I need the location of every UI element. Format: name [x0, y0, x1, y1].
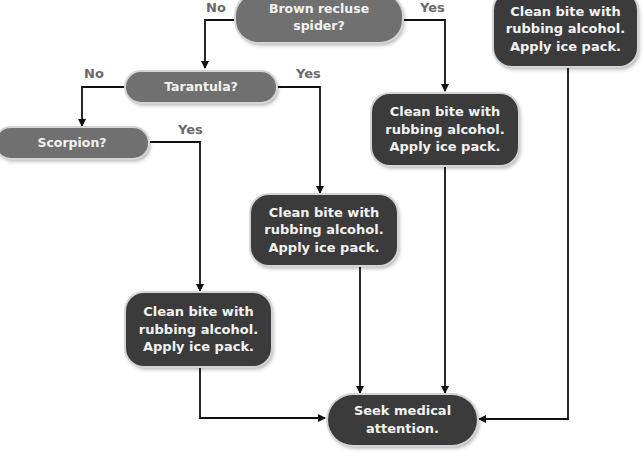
node-text: rubbing alcohol.	[139, 321, 258, 339]
node-text: rubbing alcohol.	[506, 20, 625, 38]
node-text: Seek medical	[354, 402, 451, 420]
node-text: spider?	[293, 18, 345, 35]
node-seek-medical: Seek medical attention.	[328, 395, 477, 445]
node-text: rubbing alcohol.	[264, 221, 383, 239]
node-scorpion: Scorpion?	[0, 128, 148, 158]
edge-label-tarantula-yes: Yes	[296, 66, 321, 81]
node-text: Apply ice pack.	[143, 338, 254, 356]
node-text: Clean bite with	[269, 204, 380, 222]
node-brown-recluse: Brown recluse spider?	[236, 0, 402, 42]
node-text: Scorpion?	[37, 135, 106, 152]
node-text: Clean bite with	[143, 303, 254, 321]
node-text: attention.	[366, 420, 439, 438]
node-text: Clean bite with	[390, 103, 501, 121]
node-text: Apply ice pack.	[268, 239, 379, 257]
edge-label-brown-yes: Yes	[420, 0, 445, 15]
node-text: Tarantula?	[164, 79, 238, 96]
node-text: Clean bite with	[510, 3, 621, 21]
node-text: Brown recluse	[269, 1, 369, 18]
node-text: Apply ice pack.	[389, 138, 500, 156]
node-action-brown-recluse: Clean bite with rubbing alcohol. Apply i…	[372, 94, 518, 165]
node-action-tarantula: Clean bite with rubbing alcohol. Apply i…	[251, 195, 397, 265]
node-action-top-right: Clean bite with rubbing alcohol. Apply i…	[494, 0, 637, 66]
node-text: rubbing alcohol.	[385, 121, 504, 139]
node-action-scorpion: Clean bite with rubbing alcohol. Apply i…	[126, 293, 271, 366]
edge-label-brown-no: No	[206, 0, 226, 15]
edge-label-tarantula-no: No	[84, 66, 104, 81]
node-tarantula: Tarantula?	[126, 72, 276, 102]
node-text: Apply ice pack.	[510, 38, 621, 56]
edge-label-scorpion-yes: Yes	[178, 122, 203, 137]
